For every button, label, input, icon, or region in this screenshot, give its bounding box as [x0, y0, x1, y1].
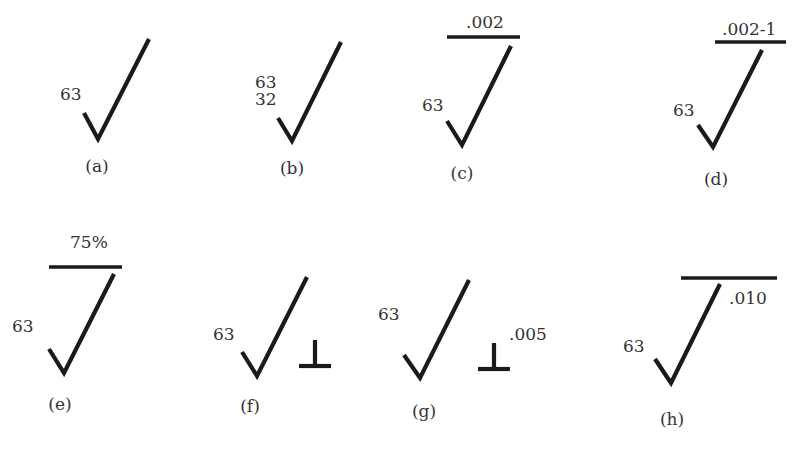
roughness-value-c: 63 — [422, 97, 444, 114]
surface-symbol-c — [447, 37, 520, 145]
checkmark-icon — [242, 277, 307, 376]
roughness-value-g: 63 — [378, 306, 400, 323]
caption-b: (b) — [280, 160, 304, 177]
surface-symbol-b — [278, 42, 341, 141]
surface-symbol-d — [698, 42, 786, 147]
roughness-value-a: 63 — [60, 86, 82, 103]
roughness-value-d: 63 — [673, 102, 695, 119]
caption-g: (g) — [412, 403, 436, 420]
checkmark-icon — [278, 42, 341, 141]
caption-f: (f) — [240, 398, 260, 415]
caption-d: (d) — [704, 171, 728, 188]
checkmark-icon — [84, 39, 149, 139]
checkmark-icon — [447, 46, 511, 145]
surface-texture-symbols-diagram — [0, 0, 798, 449]
caption-h: (h) — [660, 411, 684, 428]
checkmark-icon — [404, 280, 469, 378]
perp-note-h: .010 — [729, 290, 767, 307]
surface-symbol-g — [404, 280, 510, 378]
top-note-d: .002-1 — [722, 21, 776, 38]
surface-symbol-f — [242, 277, 331, 376]
roughness-value-h: 63 — [623, 338, 645, 355]
roughness-value-f: 63 — [213, 326, 235, 343]
perpendicular-lay-icon — [478, 343, 510, 369]
surface-symbol-a — [84, 39, 149, 139]
top-note-e: 75% — [70, 234, 108, 251]
lower-roughness-value-b: 32 — [255, 91, 277, 108]
roughness-value-e: 63 — [12, 318, 34, 335]
caption-a: (a) — [85, 158, 108, 175]
checkmark-icon — [49, 274, 114, 373]
caption-c: (c) — [451, 165, 474, 182]
caption-e: (e) — [48, 396, 71, 413]
top-note-c: .002 — [466, 14, 504, 31]
checkmark-icon — [698, 50, 762, 147]
checkmark-icon — [655, 284, 720, 383]
perp-note-g: .005 — [509, 326, 547, 343]
perpendicular-lay-icon — [299, 340, 331, 366]
surface-symbol-e — [49, 267, 122, 373]
